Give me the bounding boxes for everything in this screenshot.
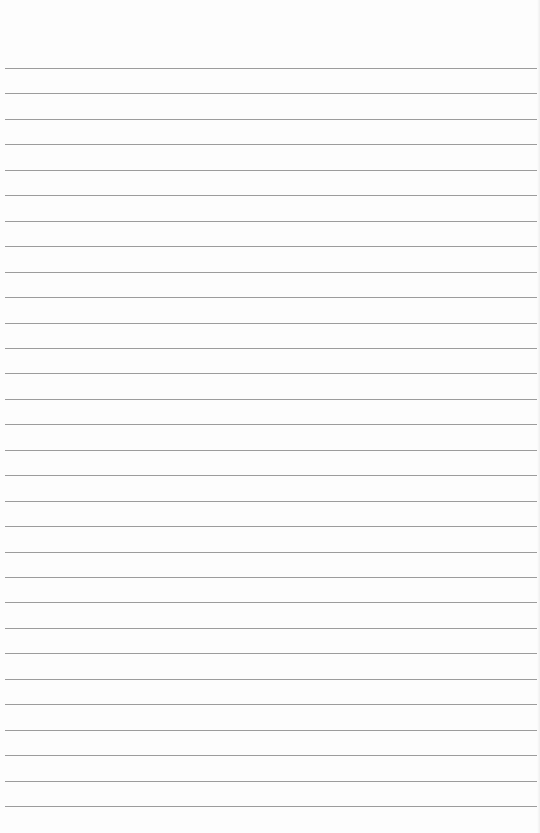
ruled-line [5, 221, 537, 222]
ruled-line [5, 272, 537, 273]
ruled-line [5, 552, 537, 553]
ruled-line [5, 68, 537, 69]
ruled-line [5, 679, 537, 680]
ruled-line [5, 577, 537, 578]
ruled-line [5, 373, 537, 374]
ruled-line [5, 93, 537, 94]
ruled-line [5, 246, 537, 247]
ruled-line [5, 399, 537, 400]
ruled-line [5, 806, 537, 807]
ruled-line [5, 781, 537, 782]
ruled-line [5, 475, 537, 476]
ruled-line [5, 348, 537, 349]
ruled-line [5, 602, 537, 603]
ruled-line [5, 730, 537, 731]
ruled-line [5, 704, 537, 705]
ruled-line [5, 450, 537, 451]
ruled-line [5, 653, 537, 654]
ruled-line [5, 755, 537, 756]
ruled-line [5, 297, 537, 298]
ruled-line [5, 323, 537, 324]
ruled-line [5, 424, 537, 425]
ruled-line [5, 170, 537, 171]
ruled-line [5, 501, 537, 502]
ruled-line [5, 195, 537, 196]
ruled-line [5, 526, 537, 527]
ruled-lines [5, 0, 537, 833]
ruled-line [5, 144, 537, 145]
lined-paper-page [0, 0, 540, 833]
ruled-line [5, 628, 537, 629]
ruled-line [5, 119, 537, 120]
